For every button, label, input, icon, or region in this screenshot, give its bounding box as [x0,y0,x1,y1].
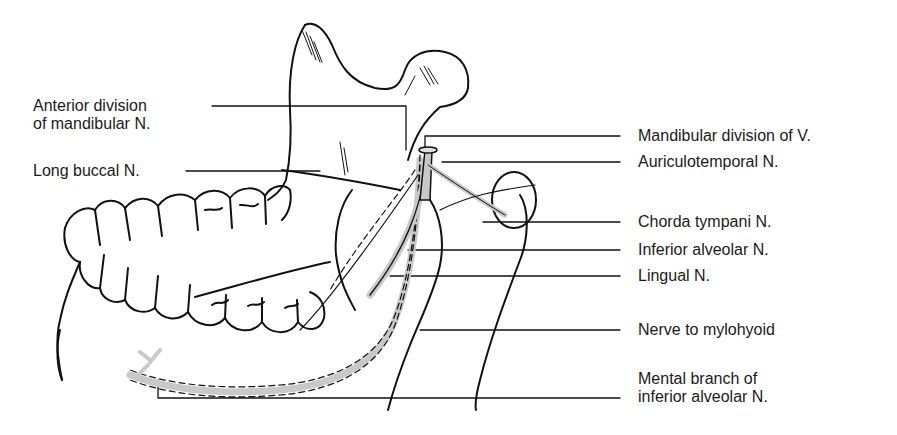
label-line: Lingual N. [638,267,710,285]
label-line: Chorda tympani N. [638,213,771,231]
label-line: of mandibular N. [33,115,150,133]
label-lingual: Lingual N. [638,267,710,285]
label-line: Auriculotemporal N. [638,153,779,171]
label-line: Mandibular division of V. [638,127,811,145]
label-anterior-division: Anterior division of mandibular N. [33,97,150,133]
label-line: Anterior division [33,97,150,115]
label-long-buccal: Long buccal N. [33,162,140,180]
upper-teeth [64,186,290,262]
label-auriculotemporal: Auriculotemporal N. [638,153,779,171]
label-line: Long buccal N. [33,162,140,180]
nerves [130,147,535,397]
label-line: Mental branch of [638,370,768,388]
label-mental-branch: Mental branch of inferior alveolar N. [638,370,768,406]
label-inferior-alveolar: Inferior alveolar N. [638,241,769,259]
leader-lines [158,106,620,398]
label-line: inferior alveolar N. [638,388,768,406]
label-line: Inferior alveolar N. [638,241,769,259]
label-mandibular-division: Mandibular division of V. [638,127,811,145]
label-line: Nerve to mylohyoid [638,321,775,339]
label-nerve-to-mylohyoid: Nerve to mylohyoid [638,321,775,339]
label-chorda-tympani: Chorda tympani N. [638,213,771,231]
ramus-outline [268,25,305,200]
lower-teeth [80,255,325,332]
